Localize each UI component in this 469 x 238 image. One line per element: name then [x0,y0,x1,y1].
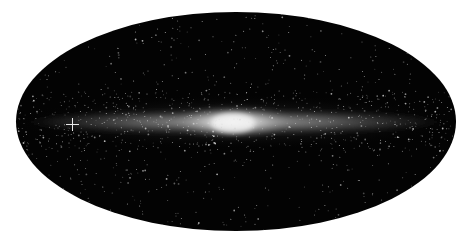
all-sky-map [16,12,456,231]
cross-marker [66,118,79,131]
galaxy-render [16,12,456,231]
